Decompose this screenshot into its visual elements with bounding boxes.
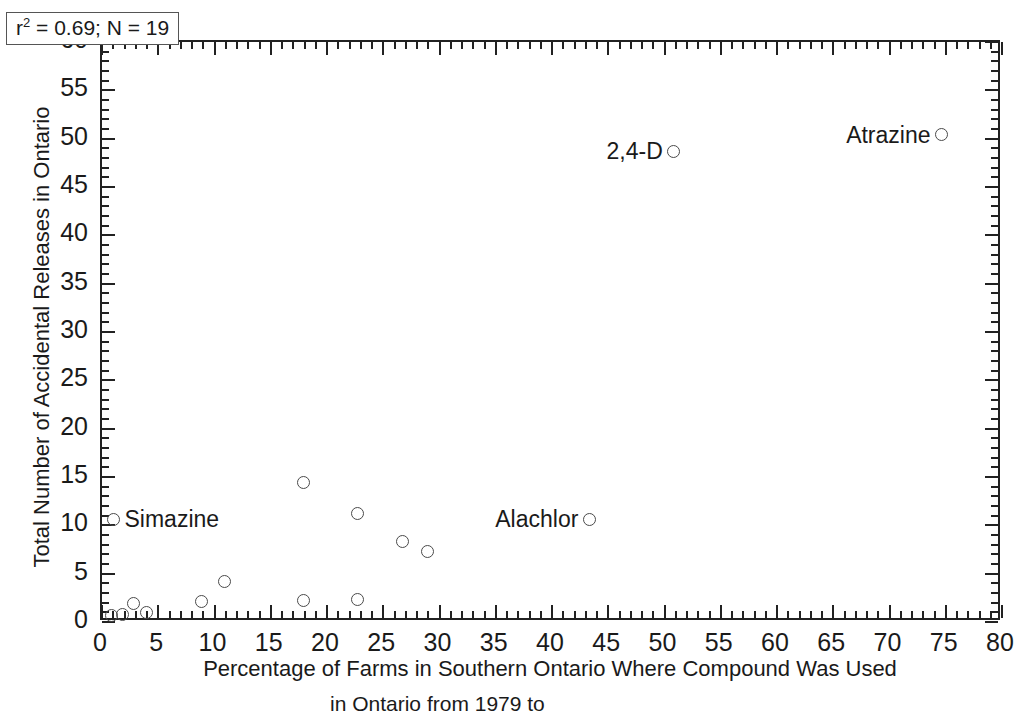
- x-axis-tick: [922, 611, 924, 618]
- x-axis-tick: [720, 605, 722, 618]
- y-axis-tick: [991, 118, 998, 120]
- x-axis-tick: [934, 42, 936, 49]
- x-axis-tick: [326, 605, 328, 618]
- x-axis-tick: [979, 611, 981, 618]
- y-axis-tick: [991, 563, 998, 565]
- x-axis-tick: [956, 611, 958, 618]
- y-axis-tick: [102, 283, 115, 285]
- point-label-alachlor: Alachlor: [495, 508, 578, 531]
- y-axis-tick: [991, 167, 998, 169]
- y-axis-tick: [102, 486, 109, 488]
- y-axis-tick: [991, 176, 998, 178]
- y-axis-tick: [102, 553, 109, 555]
- x-axis-tick: [439, 42, 441, 55]
- y-axis-tick: [985, 186, 998, 188]
- x-axis-tick: [641, 42, 643, 49]
- x-axis-tick: [191, 42, 193, 49]
- y-axis-tick: [102, 196, 109, 198]
- y-axis-tick: [102, 350, 109, 352]
- x-axis-tick: [214, 42, 216, 55]
- x-axis-tick: [169, 611, 171, 618]
- y-axis-tick: [991, 157, 998, 159]
- y-axis-tick: [991, 505, 998, 507]
- x-axis-tick: [877, 42, 879, 49]
- caption-text: in Ontario from 1979 to: [330, 692, 545, 711]
- x-axis-tick: [427, 42, 429, 49]
- x-axis-tick: [596, 611, 598, 618]
- y-axis-tick: [991, 515, 998, 517]
- x-axis-tick: [889, 42, 891, 55]
- data-point-alachlor: [583, 513, 596, 526]
- x-axis-tick: [686, 42, 688, 49]
- x-axis-tick: [799, 42, 801, 49]
- y-axis-tick: [102, 418, 109, 420]
- y-axis-tick: [991, 389, 998, 391]
- x-axis-tick: [652, 42, 654, 49]
- x-axis-tick: [776, 42, 778, 55]
- x-axis-tick: [259, 611, 261, 618]
- y-axis-tick: [102, 147, 109, 149]
- y-axis-tick: [991, 486, 998, 488]
- caption-remnant: in Ontario from 1979 to: [0, 692, 1026, 711]
- x-axis-tick: [742, 42, 744, 49]
- y-axis-tick: [991, 553, 998, 555]
- y-axis-tick: [991, 321, 998, 323]
- x-axis-tick: [304, 611, 306, 618]
- x-axis-tick: [979, 42, 981, 49]
- y-axis-tick: [991, 341, 998, 343]
- y-axis-tick: [102, 379, 115, 381]
- y-axis-tick: [985, 573, 998, 575]
- x-axis-tick: [450, 42, 452, 49]
- x-axis-tick: [427, 611, 429, 618]
- y-axis-tick: [991, 109, 998, 111]
- y-axis-tick: [102, 176, 109, 178]
- x-axis-tick: [472, 611, 474, 618]
- x-axis-tick: [540, 42, 542, 49]
- x-axis-tick: [236, 42, 238, 49]
- x-axis-tick: [394, 611, 396, 618]
- y-axis-tick: [991, 602, 998, 604]
- x-axis-tick: [270, 42, 272, 55]
- y-axis-tick: [102, 128, 109, 130]
- x-axis-tick: [844, 42, 846, 49]
- x-axis-tick: [889, 605, 891, 618]
- x-axis-tick: [607, 605, 609, 618]
- y-axis-tick: [102, 428, 115, 430]
- x-axis-tick: [247, 611, 249, 618]
- x-axis-tick: [439, 605, 441, 618]
- y-axis-tick: [102, 399, 109, 401]
- y-axis-tick: [102, 331, 115, 333]
- x-axis-tick: [911, 611, 913, 618]
- x-axis-tick: [900, 42, 902, 49]
- y-axis-tick: [991, 302, 998, 304]
- x-axis-tick: [495, 605, 497, 618]
- x-axis-tick: [574, 42, 576, 49]
- x-axis-tick: [765, 42, 767, 49]
- x-axis-tick: [517, 611, 519, 618]
- x-axis-tick: [360, 611, 362, 618]
- y-axis-tick: [985, 331, 998, 333]
- x-axis-tick: [956, 42, 958, 49]
- y-axis-tick: [991, 147, 998, 149]
- y-axis-tick: [102, 360, 109, 362]
- x-axis-tick: [382, 605, 384, 618]
- x-axis-tick: [529, 611, 531, 618]
- x-axis-tick: [416, 42, 418, 49]
- y-axis-tick: [991, 292, 998, 294]
- x-axis-tick: [585, 611, 587, 618]
- x-axis-tick: [225, 42, 227, 49]
- x-axis-tick: [675, 42, 677, 49]
- y-axis-tick: [991, 51, 998, 53]
- y-axis-tick: [102, 89, 115, 91]
- y-axis-tick: [102, 99, 109, 101]
- x-axis-tick: [945, 605, 947, 618]
- x-axis-tick: [832, 42, 834, 55]
- x-axis-tick: [664, 605, 666, 618]
- x-axis-tick: [810, 611, 812, 618]
- data-point-2-4-d: [667, 145, 680, 158]
- y-axis-tick: [102, 157, 109, 159]
- y-axis-tick: [985, 138, 998, 140]
- x-axis-tick: [360, 42, 362, 49]
- y-axis-tick: [102, 205, 109, 207]
- x-axis-tick: [709, 611, 711, 618]
